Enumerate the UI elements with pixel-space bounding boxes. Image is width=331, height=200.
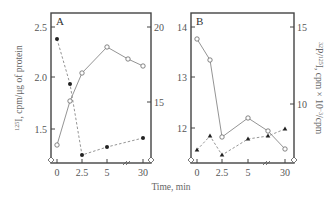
panel-a-series-open-markers [55, 45, 145, 147]
panel-a-ytick-right: 15 [154, 97, 164, 108]
panel-b-xtick: 5 [246, 167, 251, 178]
panel-b-xtick: 30 [280, 167, 290, 178]
figure: 125I, cpm/μg of protein 32P/125I, cpm × … [0, 0, 331, 200]
panel-b: B 14 13 12 15 10 0 2.5 5 30 [177, 13, 307, 178]
axis-break-icon [188, 157, 297, 165]
panel-a-xtick: 30 [138, 167, 148, 178]
axis-break-icon [48, 157, 154, 165]
panel-b-frame [191, 13, 294, 163]
panel-a-ytick-right: 20 [154, 22, 164, 33]
panel-a-frame [51, 13, 151, 163]
panel-a-ytick-left: 1.5 [35, 124, 48, 135]
panel-b-series-open-line [197, 39, 285, 149]
panel-a-series-open-line [57, 47, 143, 145]
panel-b-xtick: 2.5 [216, 167, 229, 178]
panel-a-label: A [56, 15, 64, 27]
panel-b-label: B [196, 15, 203, 27]
panel-b-ytick-left: 12 [177, 123, 187, 134]
y-axis-label-left: 125I, cpm/μg of protein [14, 45, 24, 131]
panel-a-series-filled-markers [55, 37, 145, 157]
panel-b-ytick-left: 13 [177, 72, 187, 83]
panel-a-series-filled-line [57, 39, 143, 155]
panel-b-series-filled-line [197, 129, 285, 155]
panel-b-series-open-markers [195, 37, 287, 151]
panel-a-ytick-left: 2.0 [35, 72, 48, 83]
y-axis-label-right: 32P/125I, cpm × 10−3/cpm [314, 42, 324, 135]
panel-a-xtick: 2.5 [76, 167, 89, 178]
panel-a-xtick: 0 [55, 167, 60, 178]
panel-b-series-filled-markers [195, 127, 288, 157]
panel-a-xtick: 5 [105, 167, 110, 178]
panel-b-xtick: 0 [195, 167, 200, 178]
panel-b-ytick-right: 10 [297, 99, 307, 110]
x-axis-label: Time, min [151, 182, 190, 192]
panel-b-ytick-left: 14 [177, 22, 187, 33]
panel-a: A 2.5 2.0 1.5 20 15 0 2.5 5 30 [35, 13, 165, 178]
panel-b-ytick-right: 15 [297, 22, 307, 33]
panel-a-ytick-left: 2.5 [35, 22, 48, 33]
